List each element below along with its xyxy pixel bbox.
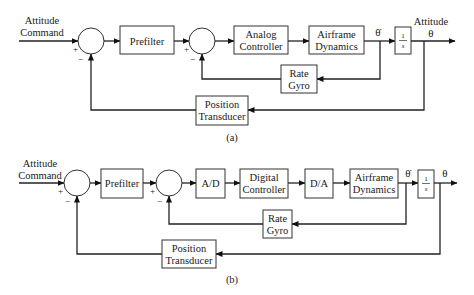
integrator-denominator: s bbox=[402, 42, 405, 50]
input-label-line1: Attitude bbox=[23, 158, 58, 169]
airframe-label-line2: Dynamics bbox=[315, 41, 358, 52]
rate-gyro-label-line1: Rate bbox=[289, 68, 309, 79]
input-label-line2: Command bbox=[18, 170, 62, 181]
rate-feedback-path-out bbox=[169, 196, 263, 224]
airframe-label-line2: Dynamics bbox=[353, 184, 396, 195]
prefilter-label: Prefilter bbox=[130, 36, 165, 47]
position-feedback-path-out bbox=[77, 196, 162, 254]
summing-junction-inner bbox=[156, 170, 182, 196]
block-diagram-figure: Attitude Command + − Prefilter + − Analo… bbox=[0, 0, 474, 295]
summing-junction-outer bbox=[78, 28, 104, 54]
theta-dot-label: θ̇ bbox=[405, 167, 411, 179]
position-transducer-label-line1: Position bbox=[205, 99, 240, 110]
prefilter-label: Prefilter bbox=[105, 178, 140, 189]
position-feedback-path-out bbox=[91, 54, 196, 110]
output-label-line1: Attitude bbox=[414, 16, 449, 27]
controller-label-line2: Controller bbox=[242, 184, 286, 195]
airframe-label-line1: Airframe bbox=[317, 29, 356, 40]
input-label-line1: Attitude bbox=[25, 15, 60, 26]
position-transducer-label-line2: Transducer bbox=[199, 111, 246, 122]
adc-label: A/D bbox=[201, 178, 220, 189]
input-label-line2: Command bbox=[20, 27, 64, 38]
caption-b: (b) bbox=[226, 274, 239, 286]
controller-label-line1: Analog bbox=[246, 29, 278, 40]
position-transducer-label-line1: Position bbox=[172, 243, 207, 254]
diagram-a: Attitude Command + − Prefilter + − Analo… bbox=[19, 15, 455, 144]
dac-label: D/A bbox=[310, 178, 329, 189]
summing-junction-outer bbox=[64, 170, 90, 196]
summer2-plus-sign: + bbox=[150, 186, 155, 196]
rate-gyro-label-line1: Rate bbox=[268, 213, 288, 224]
summer2-minus-sign: − bbox=[157, 196, 162, 206]
integrator-numerator: 1 bbox=[424, 175, 428, 183]
summer2-minus-sign: − bbox=[190, 54, 195, 64]
output-theta-label: θ bbox=[428, 27, 433, 39]
caption-a: (a) bbox=[226, 132, 238, 144]
summer2-plus-sign: + bbox=[184, 44, 189, 54]
rate-gyro-label-line2: Gyro bbox=[267, 225, 289, 236]
integrator-denominator: s bbox=[425, 185, 428, 193]
summing-junction-inner bbox=[189, 28, 215, 54]
theta-dot-label: θ̇ bbox=[375, 26, 381, 38]
controller-label-line1: Digital bbox=[249, 172, 278, 183]
integrator-numerator: 1 bbox=[401, 32, 405, 40]
position-transducer-label-line2: Transducer bbox=[166, 255, 213, 266]
airframe-label-line1: Airframe bbox=[355, 172, 394, 183]
summer1-plus-sign: + bbox=[73, 44, 78, 54]
rate-feedback-path-out bbox=[202, 54, 281, 79]
summer1-plus-sign: + bbox=[58, 186, 63, 196]
output-theta-label: θ bbox=[442, 167, 447, 179]
controller-label-line2: Controller bbox=[239, 41, 283, 52]
summer1-minus-sign: − bbox=[78, 54, 83, 64]
diagram-b: Attitude Command + − Prefilter + − A/D D… bbox=[18, 158, 457, 286]
rate-gyro-label-line2: Gyro bbox=[288, 80, 310, 91]
summer1-minus-sign: − bbox=[65, 196, 70, 206]
